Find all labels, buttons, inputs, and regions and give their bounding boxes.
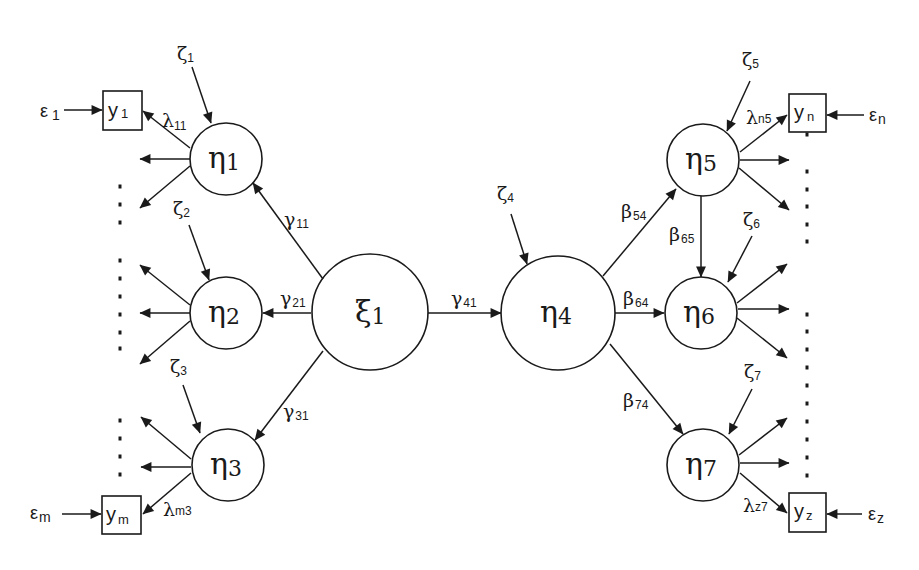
latent-eta4: η4 xyxy=(501,256,615,370)
latent-eta2: η2 xyxy=(190,277,262,349)
svg-text:ζ7: ζ7 xyxy=(744,360,761,383)
error-epsm: εm xyxy=(30,503,101,525)
path-gamma21: γ21 xyxy=(263,287,311,313)
svg-text:λ11: λ11 xyxy=(162,109,187,133)
svg-text:εm: εm xyxy=(30,503,51,525)
svg-text:β54: β54 xyxy=(621,200,647,223)
svg-text:ζ5: ζ5 xyxy=(742,48,759,71)
svg-text:y1: y1 xyxy=(108,99,128,121)
error-epsz: εz xyxy=(827,504,884,526)
svg-text:ε1: ε1 xyxy=(40,101,60,123)
indicator-yz: yz xyxy=(789,493,826,532)
path-beta65: β65 xyxy=(669,196,701,277)
disturbance-zeta4: ζ4 xyxy=(497,182,527,264)
svg-text:εz: εz xyxy=(868,504,884,526)
path-beta64: β64 xyxy=(615,287,664,313)
error-eps1: ε1 xyxy=(40,101,102,123)
loading-lambdam3: λm3 xyxy=(143,473,192,520)
disturbance-zeta6: ζ6 xyxy=(728,208,760,282)
svg-text:γ31: γ31 xyxy=(283,400,309,423)
svg-text:ζ4: ζ4 xyxy=(497,182,514,205)
svg-text:γ11: γ11 xyxy=(284,208,309,231)
svg-text:γ41: γ41 xyxy=(451,287,477,310)
eta1-label: η1 xyxy=(208,140,240,175)
indicator-y1: y1 xyxy=(103,91,142,130)
path-beta74: β74 xyxy=(610,344,683,434)
error-epsn: εn xyxy=(827,105,886,127)
path-gamma11: γ11 xyxy=(253,183,323,279)
eta6-label: η6 xyxy=(683,294,715,329)
disturbance-zeta2: ζ2 xyxy=(173,197,209,280)
svg-text:yn: yn xyxy=(794,101,814,124)
latent-eta5: η5 xyxy=(667,124,739,196)
latent-eta6: η6 xyxy=(665,277,737,349)
svg-text:ζ2: ζ2 xyxy=(173,197,190,220)
latent-eta3: η3 xyxy=(192,429,264,501)
svg-text:ζ6: ζ6 xyxy=(743,208,760,231)
path-gamma31: γ31 xyxy=(255,351,323,440)
svg-text:λn5: λn5 xyxy=(746,106,772,128)
svg-text:β65: β65 xyxy=(669,223,695,246)
indicator-yn: yn xyxy=(789,94,826,132)
eta4-label: η4 xyxy=(540,294,572,329)
disturbance-zeta1: ζ1 xyxy=(177,42,211,123)
eta5-label: η5 xyxy=(685,141,717,176)
disturbance-zeta7: ζ7 xyxy=(729,360,761,434)
svg-text:λz7: λz7 xyxy=(743,494,768,516)
eta2-label: η2 xyxy=(208,294,240,329)
latent-eta7: η7 xyxy=(667,429,739,501)
loading-lambda11: λ11 xyxy=(143,109,190,148)
svg-text:yz: yz xyxy=(794,500,813,523)
disturbance-zeta3: ζ3 xyxy=(170,355,200,433)
loading-lambdan5: λn5 xyxy=(740,106,787,152)
svg-text:β74: β74 xyxy=(623,389,649,412)
xi1-label: ξ1 xyxy=(355,294,386,329)
path-beta54: β54 xyxy=(603,189,676,276)
ellipsis-dots-right xyxy=(806,133,808,477)
ellipsis-dots-left xyxy=(119,185,121,476)
svg-text:γ21: γ21 xyxy=(280,287,306,310)
svg-text:ym: ym xyxy=(106,503,129,527)
latent-eta1: η1 xyxy=(190,123,262,195)
svg-text:ζ3: ζ3 xyxy=(170,355,187,378)
eta7-label: η7 xyxy=(685,446,717,481)
sem-path-diagram: ξ1 η1 η2 η3 η4 η5 η6 η7 y1 ym yn xyxy=(0,0,919,570)
eta3-label: η3 xyxy=(210,446,242,481)
svg-text:β64: β64 xyxy=(623,287,649,310)
latent-xi1: ξ1 xyxy=(312,254,428,370)
path-gamma41: γ41 xyxy=(428,287,501,313)
indicator-ym: ym xyxy=(102,496,141,534)
svg-text:εn: εn xyxy=(869,105,886,127)
loading-lambdaz7: λz7 xyxy=(740,473,787,516)
unlabeled-loadings-right xyxy=(737,160,789,463)
svg-text:λm3: λm3 xyxy=(163,498,192,520)
svg-text:ζ1: ζ1 xyxy=(177,42,194,65)
